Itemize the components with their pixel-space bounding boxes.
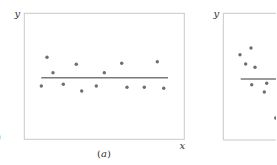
data-point bbox=[156, 60, 159, 63]
data-point bbox=[249, 46, 252, 49]
data-point bbox=[45, 56, 48, 59]
panel-b-points bbox=[238, 46, 276, 119]
panel-a-points bbox=[40, 56, 166, 93]
data-point bbox=[95, 84, 98, 87]
data-point bbox=[120, 62, 123, 65]
data-point bbox=[40, 84, 43, 87]
figure-canvas: ) y x (a) y bbox=[0, 0, 276, 165]
data-point bbox=[162, 87, 165, 90]
panel-a: y x (a) bbox=[14, 8, 186, 159]
data-point bbox=[274, 116, 276, 119]
panel-a-y-axis-label: y bbox=[14, 8, 21, 19]
data-point bbox=[265, 82, 268, 85]
data-point bbox=[103, 71, 106, 74]
data-point bbox=[51, 71, 54, 74]
data-point bbox=[244, 62, 247, 65]
data-point bbox=[80, 89, 83, 92]
data-point bbox=[263, 90, 266, 93]
data-point bbox=[253, 66, 256, 69]
data-point bbox=[143, 86, 146, 89]
data-point bbox=[238, 53, 241, 56]
left-edge-fragment: ) bbox=[0, 131, 1, 142]
panel-b-frame bbox=[223, 13, 276, 140]
data-point bbox=[75, 63, 78, 66]
data-point bbox=[125, 86, 128, 89]
data-point bbox=[62, 83, 65, 86]
panel-a-caption: (a) bbox=[97, 148, 111, 159]
panel-b: y bbox=[213, 8, 277, 140]
panel-a-frame bbox=[24, 13, 184, 139]
data-point bbox=[250, 83, 253, 86]
panel-a-x-axis-label: x bbox=[180, 140, 186, 151]
panel-b-y-axis-label: y bbox=[213, 8, 220, 19]
